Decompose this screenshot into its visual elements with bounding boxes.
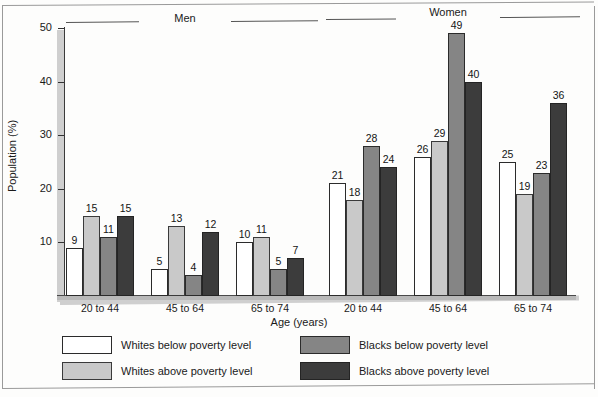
y-axis-tick-label: 20 [30,182,52,194]
group-header-women-rule-left [326,18,396,20]
bar-value-label: 49 [444,19,469,31]
bar-value-label: 12 [198,218,223,230]
y-axis-tick-label: 10 [30,235,52,247]
legend-item: Whites above poverty level [62,362,252,380]
group-header-men-rule-right [231,20,318,22]
y-axis-tick [58,28,64,29]
bar [185,275,202,296]
legend-item: Blacks above poverty level [300,362,489,380]
x-axis-category-label: 20 to 44 [323,302,403,314]
group-header-women-rule-right [500,16,580,18]
bar-value-label: 15 [79,202,104,214]
legend-item: Blacks below poverty level [300,336,488,354]
bar-value-label: 21 [325,169,350,181]
legend-swatch [62,362,112,380]
y-axis-tick-label: 50 [30,21,52,33]
plot-area: 9151115513412101157211828242629494025192… [66,28,576,296]
bar [380,167,397,296]
y-axis-tick [58,135,64,136]
bar [363,146,380,296]
bar-value-label: 7 [283,244,308,256]
bar [346,200,363,296]
bar [414,157,431,296]
bar-value-label: 28 [359,132,384,144]
chart-page: Men Women 1020304050 Population (%) Age … [0,0,598,397]
bar [465,82,482,296]
x-axis-category-label: 65 to 74 [230,302,310,314]
legend-label: Whites below poverty level [121,339,251,351]
y-axis-tick-label: 40 [30,75,52,87]
x-axis-category-label: 20 to 44 [60,302,140,314]
x-axis-category-label: 45 to 64 [408,302,488,314]
legend-label: Blacks above poverty level [359,365,489,377]
page-frame-right-border [594,6,595,389]
bar [550,103,567,296]
bar [516,194,533,296]
legend-swatch [300,336,350,354]
y-axis-line [64,27,65,297]
x-axis-category-label: 65 to 74 [493,302,573,314]
page-frame-top-border [2,1,594,6]
legend-item: Whites below poverty level [62,336,251,354]
bar [66,248,83,296]
y-axis-tick [58,82,64,83]
group-header-women: Women [408,6,488,18]
bar-value-label: 24 [376,153,401,165]
x-axis-band [57,296,576,300]
x-axis-title: Age (years) [0,316,598,328]
bar [117,216,134,296]
bar-value-label: 36 [546,89,571,101]
bar [236,242,253,296]
bar-value-label: 40 [461,68,486,80]
bar [431,141,448,296]
bar [100,237,117,296]
legend-swatch [300,362,350,380]
group-header-men-rule-left [66,21,139,23]
bar [270,269,287,296]
legend: Whites below poverty levelWhites above p… [62,336,532,384]
legend-label: Whites above poverty level [121,365,252,377]
y-axis-tick-label: 30 [30,128,52,140]
page-frame-bottom-border [3,383,595,389]
bar [287,258,304,296]
bar-value-label: 13 [164,212,189,224]
x-axis-category-label: 45 to 64 [145,302,225,314]
y-axis-title: Population (%) [6,86,18,226]
legend-label: Blacks below poverty level [359,339,488,351]
group-header-men: Men [145,12,225,24]
bar [202,232,219,296]
legend-swatch [62,336,112,354]
bar-value-label: 15 [113,202,138,214]
bar [533,173,550,296]
bar-value-label: 25 [495,148,520,160]
y-axis-tick [58,189,64,190]
y-axis-shadow [57,30,64,302]
bar [329,183,346,296]
page-frame-left-border [2,5,3,389]
bar [151,269,168,296]
bar-value-label: 11 [249,223,274,235]
